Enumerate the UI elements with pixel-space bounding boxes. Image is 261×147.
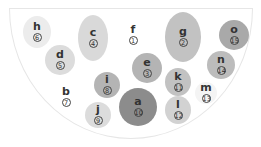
node-e: e3 [132, 53, 162, 83]
node-label: h [33, 22, 41, 32]
node-label: n [217, 55, 225, 65]
node-l: l12 [165, 96, 191, 124]
node-m: m13 [195, 82, 217, 104]
node-label: a [134, 97, 141, 107]
node-b: b7 [56, 87, 76, 107]
node-label: b [62, 87, 70, 97]
node-number-badge: 13 [202, 94, 211, 103]
node-number-badge: 3 [143, 69, 152, 78]
node-f: f1 [123, 25, 143, 45]
node-n: n14 [207, 51, 235, 79]
node-number-badge: 6 [33, 33, 42, 42]
node-number-badge: 1 [129, 36, 138, 45]
node-label: j [96, 105, 100, 115]
node-i: i8 [94, 72, 120, 98]
node-number-badge: 4 [89, 39, 98, 48]
node-o: o15 [219, 20, 249, 50]
node-number-badge: 14 [217, 66, 226, 75]
node-label: i [105, 75, 109, 85]
node-g: g2 [165, 12, 201, 62]
node-k: k11 [165, 68, 191, 96]
node-number-badge: 7 [62, 98, 71, 107]
node-label: g [179, 27, 187, 37]
node-number-badge: 2 [179, 38, 188, 47]
node-h: h6 [23, 16, 51, 48]
node-label: e [143, 58, 150, 68]
node-number-badge: 11 [174, 83, 183, 92]
node-number-badge: 12 [174, 111, 183, 120]
node-label: m [200, 83, 211, 93]
node-number-badge: 9 [94, 116, 103, 125]
node-label: c [90, 28, 97, 38]
node-label: d [56, 50, 64, 60]
node-label: f [131, 25, 136, 35]
node-c: c4 [78, 15, 108, 61]
node-number-badge: 15 [230, 36, 239, 45]
node-label: o [230, 25, 238, 35]
node-d: d5 [45, 45, 75, 75]
node-j: j9 [85, 102, 111, 128]
node-number-badge: 10 [134, 108, 143, 117]
node-label: k [174, 72, 181, 82]
node-number-badge: 5 [56, 61, 65, 70]
node-a: a10 [119, 88, 157, 126]
node-number-badge: 8 [103, 86, 112, 95]
node-label: l [176, 100, 180, 110]
